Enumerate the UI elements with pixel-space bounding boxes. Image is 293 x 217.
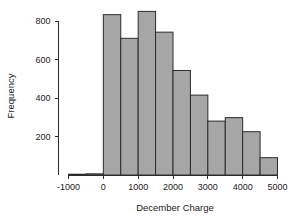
x-tick-label: 3000 <box>198 182 218 192</box>
x-tick-label: -1000 <box>57 182 80 192</box>
chart-canvas: -1000010002000300040005000 200400600800 … <box>0 0 293 217</box>
histogram-chart: -1000010002000300040005000 200400600800 … <box>0 0 293 217</box>
x-tick-label: 2000 <box>163 182 183 192</box>
histogram-bar <box>138 11 155 175</box>
y-axis-title: Frequency <box>5 73 16 118</box>
y-tick-label: 800 <box>35 16 50 26</box>
y-tick-label: 200 <box>35 132 50 142</box>
y-axis-ticks: 200400600800 <box>35 16 58 142</box>
y-tick-label: 600 <box>35 55 50 65</box>
x-tick-label: 4000 <box>233 182 253 192</box>
x-tick-label: 5000 <box>267 182 287 192</box>
x-tick-label: 1000 <box>128 182 148 192</box>
histogram-bar <box>225 118 242 175</box>
histogram-bar <box>190 95 207 175</box>
bars-group <box>69 11 278 175</box>
histogram-bar <box>243 132 260 175</box>
histogram-bar <box>260 158 277 175</box>
y-tick-label: 400 <box>35 93 50 103</box>
x-axis-title: December Charge <box>136 202 214 213</box>
histogram-bar <box>156 32 173 175</box>
histogram-bar <box>208 121 225 175</box>
histogram-bar <box>173 70 190 175</box>
x-axis-ticks: -1000010002000300040005000 <box>57 175 288 192</box>
histogram-bar <box>121 38 138 175</box>
x-tick-label: 0 <box>101 182 106 192</box>
histogram-bar <box>103 15 120 175</box>
